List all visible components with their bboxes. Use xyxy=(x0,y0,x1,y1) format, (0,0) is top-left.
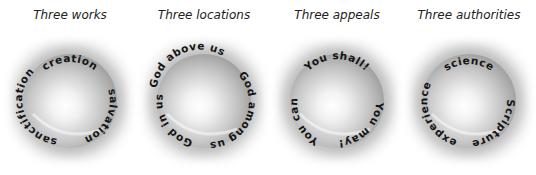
panel-caption: Three authorities xyxy=(402,8,536,22)
circle-graphic: science Scripture experience xyxy=(402,34,536,168)
circle-graphic: You shall! You may! You can! xyxy=(270,34,404,168)
panel-three-authorities: Three authorities xyxy=(402,0,536,175)
circle-svg: creation salvation sanctification xyxy=(3,34,137,168)
circle-svg: You shall! You may! You can! xyxy=(270,34,404,168)
panel-caption: Three appeals xyxy=(270,8,404,22)
panel-caption: Three works xyxy=(3,8,137,22)
circle-svg: science Scripture experience xyxy=(402,34,536,168)
panel-three-works: Three works xyxy=(3,0,137,175)
circle-svg: God above us God among us God in us xyxy=(137,34,271,168)
panel-three-appeals: Three appeals xyxy=(270,0,404,175)
circle-graphic: God above us God among us God in us xyxy=(137,34,271,168)
panel-three-locations: Three locations xyxy=(137,0,271,175)
panel-caption: Three locations xyxy=(137,8,271,22)
circle-graphic: creation salvation sanctification xyxy=(3,34,137,168)
